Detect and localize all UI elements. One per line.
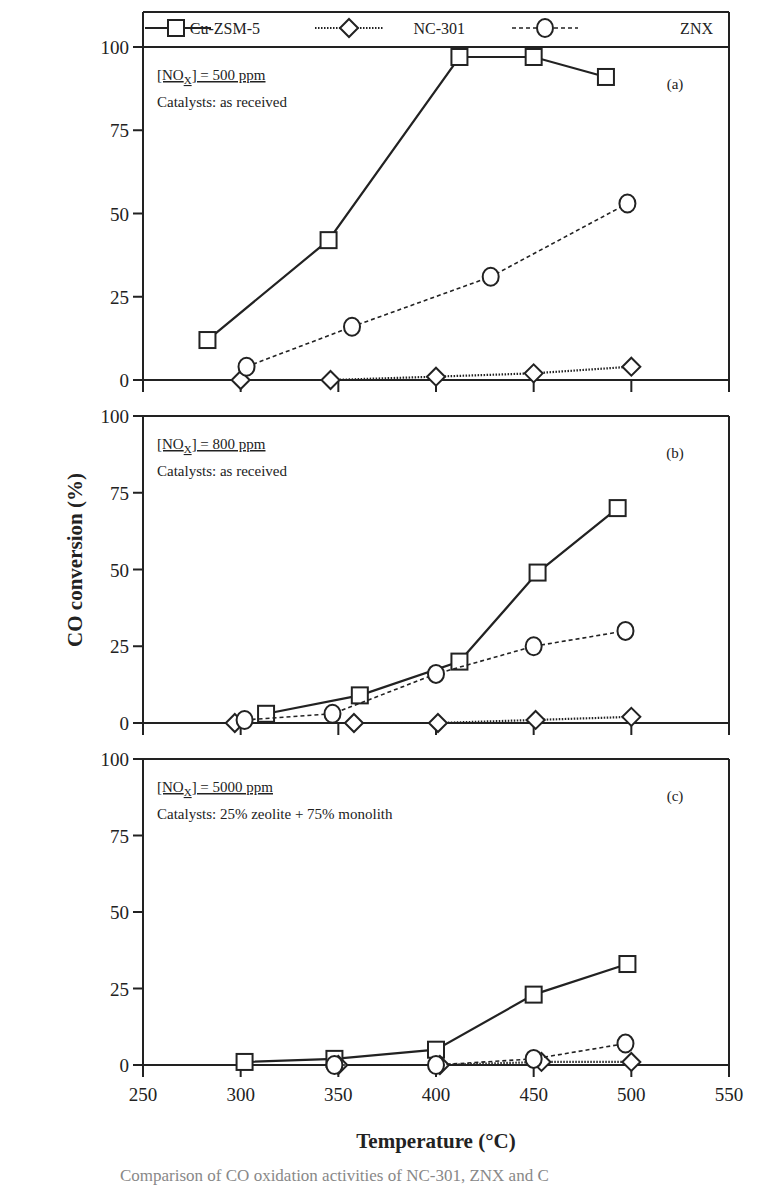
cu-zsm-5-marker (530, 565, 546, 581)
znx-marker (483, 268, 499, 286)
series-znx (326, 1035, 633, 1074)
catalysts-label: Catalysts: as received (157, 463, 287, 479)
legend-znx-marker (537, 19, 553, 37)
cu-zsm-5-marker (598, 69, 614, 85)
nc-301-marker (322, 371, 340, 389)
znx-marker (617, 622, 633, 640)
series-znx (239, 195, 636, 376)
x-tick-label: 400 (422, 1084, 451, 1105)
legend-label: NC-301 (413, 20, 465, 37)
znx-marker (428, 665, 444, 683)
znx-marker (326, 1056, 342, 1074)
cu-zsm-5-marker (451, 654, 467, 670)
series-nc-301 (232, 358, 641, 389)
y-tick-label: 50 (110, 560, 129, 581)
panel-label: (c) (667, 788, 684, 805)
znx-marker (428, 1056, 444, 1074)
cu-zsm-5-marker (610, 500, 626, 516)
series-cu-zsm-5 (258, 500, 626, 722)
y-tick-label: 75 (110, 826, 129, 847)
nc-301-marker (429, 714, 447, 732)
series-cu-zsm-5 (237, 956, 636, 1070)
znx-marker (617, 1035, 633, 1053)
x-tick-label: 300 (226, 1084, 255, 1105)
y-tick-label: 25 (110, 287, 129, 308)
y-axis-title: CO conversion (%) (63, 473, 87, 647)
nc-301-marker (622, 358, 640, 376)
y-tick-label: 50 (110, 902, 129, 923)
y-tick-label: 25 (110, 636, 129, 657)
cu-zsm-5-marker (321, 232, 337, 248)
x-tick-label: 550 (715, 1084, 744, 1105)
znx-marker (239, 358, 255, 376)
legend: Cu-ZSM-5NC-301ZNX (143, 19, 729, 47)
y-tick-label: 75 (110, 120, 129, 141)
y-tick-label: 25 (110, 979, 129, 1000)
nc-301-marker (345, 714, 363, 732)
cu-zsm-5-marker (619, 956, 635, 972)
condition-label: [NOX] = 800 ppm (157, 436, 266, 455)
znx-marker (526, 637, 542, 655)
znx-marker (526, 1050, 542, 1068)
znx-marker (344, 318, 360, 336)
legend-cu-zsm-5-marker (168, 20, 184, 36)
series-nc-301 (226, 708, 641, 732)
legend-label: Cu-ZSM-5 (190, 20, 260, 37)
catalysts-label: Catalysts: as received (157, 94, 287, 110)
x-tick-label: 350 (324, 1084, 353, 1105)
y-tick-label: 0 (120, 370, 130, 391)
y-tick-label: 0 (120, 713, 130, 734)
y-tick-label: 0 (120, 1055, 130, 1076)
legend-label: ZNX (680, 20, 713, 37)
panel-label: (b) (666, 445, 684, 462)
y-tick-label: 50 (110, 204, 129, 225)
x-axis-title: Temperature (°C) (356, 1129, 515, 1153)
panel-label: (a) (667, 76, 684, 93)
x-tick-label: 450 (519, 1084, 548, 1105)
cu-zsm-5-marker (199, 332, 215, 348)
condition-label: [NOX] = 5000 ppm (157, 779, 273, 798)
panel-a: 0255075100[NOX] = 500 ppmCatalysts: as r… (101, 12, 730, 392)
x-tick-label: 250 (129, 1084, 158, 1105)
nc-301-marker (622, 1053, 640, 1071)
y-tick-label: 100 (101, 37, 130, 58)
cu-zsm-5-marker (451, 49, 467, 65)
nc-301-marker (427, 368, 445, 386)
cu-zsm-5-marker (352, 687, 368, 703)
catalysts-label: Catalysts: 25% zeolite + 75% monolith (157, 806, 393, 822)
x-tick-label: 500 (617, 1084, 646, 1105)
panel-b: 0255075100[NOX] = 800 ppmCatalysts: as r… (101, 406, 730, 735)
legend-nc-301-marker (340, 19, 358, 37)
znx-marker (619, 195, 635, 213)
panel-c: 0255075100250300350400450500550[NOX] = 5… (101, 749, 744, 1105)
figure-caption: Comparison of CO oxidation activities of… (120, 1166, 549, 1186)
znx-marker (324, 705, 340, 723)
cu-zsm-5-marker (526, 987, 542, 1003)
znx-marker (237, 711, 253, 729)
condition-label: [NOX] = 500 ppm (157, 67, 266, 86)
y-tick-label: 100 (101, 749, 130, 770)
nc-301-marker (527, 711, 545, 729)
cu-zsm-5-marker (237, 1054, 253, 1070)
series-znx (237, 622, 634, 729)
y-tick-label: 100 (101, 406, 130, 427)
cu-zsm-5-marker (526, 49, 542, 65)
y-tick-label: 75 (110, 483, 129, 504)
